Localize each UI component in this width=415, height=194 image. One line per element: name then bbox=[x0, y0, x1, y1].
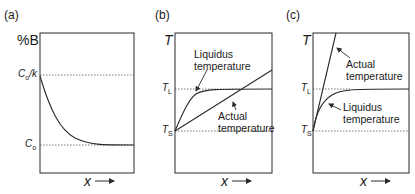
panel-a-label: (a) bbox=[4, 8, 19, 22]
concentration-curve bbox=[40, 76, 134, 145]
y-axis-label: T bbox=[302, 32, 311, 48]
annotation-line: temperature bbox=[194, 60, 251, 72]
actual-annotation: Actual temperature bbox=[346, 58, 403, 82]
annotation-line: temperature bbox=[218, 122, 275, 134]
actual-annotation: Actual temperature bbox=[218, 110, 275, 134]
liquidus-annotation: Liquidus temperature bbox=[343, 101, 400, 125]
actual-pointer-icon bbox=[233, 102, 236, 110]
annotation-line: Actual bbox=[218, 110, 275, 122]
tl-sub: L bbox=[307, 88, 311, 95]
liquidus-annotation: Liquidus temperature bbox=[194, 48, 251, 72]
c0k-label: Co/k bbox=[18, 68, 37, 81]
panel-a-frame bbox=[40, 33, 134, 173]
tl-label: TL bbox=[162, 82, 172, 95]
ts-label: TS bbox=[162, 124, 173, 137]
annotation-line: Liquidus bbox=[194, 48, 251, 60]
panel-b-label: (b) bbox=[155, 8, 170, 22]
annotation-line: Actual bbox=[346, 58, 403, 70]
x-axis-label: x bbox=[221, 173, 228, 189]
c0-label: Co bbox=[25, 138, 36, 151]
annotation-line: temperature bbox=[346, 70, 403, 82]
actual-pointer-icon bbox=[337, 48, 350, 58]
figure-canvas bbox=[0, 0, 415, 194]
ts-sub: S bbox=[168, 130, 173, 137]
x-axis-label: x bbox=[360, 173, 367, 189]
annotation-line: Liquidus bbox=[343, 101, 400, 113]
panel-a bbox=[40, 33, 134, 181]
c0-sub: o bbox=[32, 144, 36, 151]
y-axis-label: T bbox=[164, 32, 173, 48]
panel-c-label: (c) bbox=[286, 8, 300, 22]
annotation-line: temperature bbox=[343, 113, 400, 125]
x-axis-label: x bbox=[84, 173, 91, 189]
tl-sub: L bbox=[168, 88, 172, 95]
liquidus-pointer-icon bbox=[196, 70, 207, 91]
liquidus-pointer-icon bbox=[329, 104, 341, 110]
tl-label: TL bbox=[301, 82, 311, 95]
ts-sub: S bbox=[307, 130, 312, 137]
ts-label: TS bbox=[301, 124, 312, 137]
y-axis-label: %B bbox=[17, 32, 39, 48]
c0k-suffix: /k bbox=[29, 68, 37, 79]
